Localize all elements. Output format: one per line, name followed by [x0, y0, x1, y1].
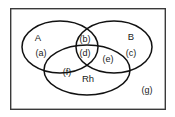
region-label-e: (e) [103, 54, 114, 64]
region-label-a: (a) [36, 48, 47, 58]
venn-diagram-figure: A B Rh (a) (b) (c) (d) (e) (f) (g) [0, 0, 175, 117]
region-label-d: (d) [80, 48, 91, 58]
set-label-b: B [128, 31, 134, 42]
region-label-g: (g) [142, 85, 153, 95]
venn-diagram-canvas: A B Rh (a) (b) (c) (d) (e) (f) (g) [0, 0, 175, 117]
region-label-f: (f) [63, 67, 72, 77]
region-label-b: (b) [80, 34, 91, 44]
set-label-rh: Rh [82, 73, 94, 84]
set-label-a: A [35, 32, 42, 43]
region-label-c: (c) [126, 48, 137, 58]
